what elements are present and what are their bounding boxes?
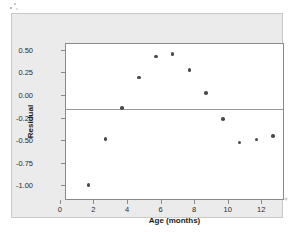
x-axis-tick — [261, 200, 262, 204]
data-point — [221, 117, 225, 121]
scan-artifact-bottom-right — [283, 196, 290, 203]
x-axis-tick — [161, 200, 162, 204]
y-axis-tick-label: 0.25 — [18, 68, 33, 77]
x-axis-tick — [60, 200, 61, 204]
x-axis-tick — [194, 200, 195, 204]
y-axis-tick-label: -1.00 — [16, 181, 33, 190]
y-axis-tick-label: 0.50 — [18, 45, 33, 54]
data-point — [154, 55, 158, 59]
data-point — [120, 106, 124, 110]
data-point — [204, 91, 208, 95]
x-axis-tick-label: 0 — [58, 205, 62, 214]
x-axis-tick-label: 10 — [224, 205, 232, 214]
data-point — [271, 134, 275, 138]
plot-area — [65, 43, 284, 200]
x-axis-tick-label: 8 — [192, 205, 196, 214]
data-point — [171, 52, 175, 56]
x-axis-tick-label: 2 — [91, 205, 95, 214]
x-axis-tick-label: 6 — [158, 205, 162, 214]
y-axis-tick-label: -0.75 — [16, 158, 33, 167]
x-axis-title: Age (months) — [65, 216, 284, 225]
data-point — [87, 183, 91, 187]
y-axis-tick-label: 0.00 — [18, 90, 33, 99]
x-axis-tick-label: 4 — [125, 205, 129, 214]
x-axis-tick-label: 12 — [257, 205, 265, 214]
zero-reference-line — [66, 109, 283, 110]
scan-artifact-top-left — [9, 2, 19, 11]
x-axis-tick — [228, 200, 229, 204]
data-point — [238, 141, 242, 145]
x-axis-tick — [127, 200, 128, 204]
y-axis-tick-label: -0.50 — [16, 136, 33, 145]
y-axis-tick-label: -0.25 — [16, 113, 33, 122]
x-axis-tick — [93, 200, 94, 204]
residual-plot-figure: Residual 0.500.250.00-0.25-0.50-0.75-1.0… — [11, 13, 283, 218]
data-point — [104, 137, 108, 141]
data-point — [255, 138, 259, 142]
data-point — [188, 68, 192, 72]
data-point — [137, 76, 141, 80]
